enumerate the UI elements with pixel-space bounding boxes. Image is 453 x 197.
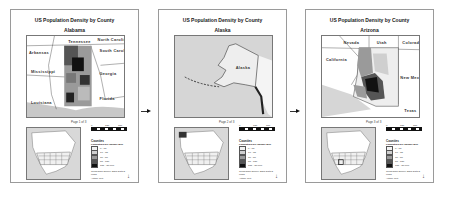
author-text: Author: Text (239, 177, 251, 179)
author-text: Author: Text (91, 177, 103, 179)
page-title: US Population Density by County (11, 17, 138, 23)
page-number: Page 1 of 3 (71, 120, 86, 124)
map-page-alaska: US Population Density by County Alaska A… (158, 9, 287, 183)
arrow-right-icon (141, 110, 151, 113)
legend: Counties Population per Square Mile 0 - … (91, 139, 131, 167)
state-title: Alabama (11, 27, 138, 33)
map-label: Mississippi (31, 69, 55, 74)
inset-map-north-america (26, 127, 81, 180)
north-arrow-icon: ↓ (422, 173, 425, 179)
map-label: Georgia (100, 71, 117, 76)
main-map-arizona: Nevada Utah Colorado California New Mexi… (321, 35, 420, 118)
map-label: New Mexico (400, 75, 419, 80)
map-page-alabama: US Population Density by County Alabama … (10, 9, 139, 183)
state-title: Alaska (159, 27, 286, 33)
map-label: Tennessee (68, 39, 91, 44)
map-label: Nevada (344, 40, 360, 45)
map-page-arizona: US Population Density by County Arizona … (305, 9, 434, 183)
main-map-alabama: Tennessee North Carolina South Carolina … (26, 35, 125, 118)
source-text: Geographic Source: ESRI Data & Maps (91, 170, 131, 176)
scale-bar: 0 150 300 (91, 124, 125, 130)
scale-bar: 0 150 300 (239, 124, 273, 130)
map-label: California (326, 57, 348, 62)
page-number: Page 2 of 3 (219, 120, 234, 124)
page-title: US Population Density by County (306, 17, 433, 23)
arrow-right-icon (290, 110, 300, 113)
legend: Counties Population per Square Mile 0 - … (386, 139, 426, 167)
map-label: Utah (377, 40, 387, 45)
scale-bar: 0 150 300 (386, 124, 420, 130)
main-map-alaska: Alaska (174, 35, 273, 118)
legend: Counties Population per Square Mile 0 - … (239, 139, 279, 167)
source-text: Geographic Source: ESRI Data & Maps (386, 170, 426, 176)
source-text: Geographic Source: ESRI Data & Maps (239, 170, 279, 176)
map-label: South Carolina (100, 48, 124, 53)
state-title: Arizona (306, 27, 433, 33)
inset-map-north-america (321, 127, 376, 180)
map-label: Louisiana (31, 100, 52, 105)
map-label: Colorado (402, 40, 419, 45)
map-label: Arkansas (29, 50, 50, 55)
map-label: North Carolina (98, 37, 124, 42)
north-arrow-icon: ↓ (127, 173, 130, 179)
north-arrow-icon: ↓ (275, 173, 278, 179)
map-label: Alaska (236, 65, 251, 70)
map-label: Florida (100, 96, 116, 101)
page-number: Page 3 of 3 (366, 120, 381, 124)
page-title: US Population Density by County (159, 17, 286, 23)
map-label: Texas (404, 108, 417, 113)
author-text: Author: Text (386, 177, 398, 179)
inset-map-north-america (174, 127, 229, 180)
